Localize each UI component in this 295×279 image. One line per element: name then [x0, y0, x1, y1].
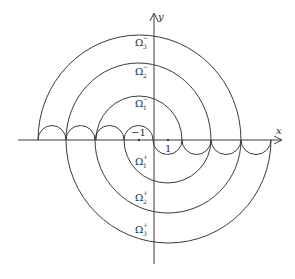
- label-omega2-minus: Ω 2 −: [135, 63, 148, 79]
- spiral-regions-diagram: x y −1 1 Ω 3 − Ω 2 − Ω 1 − Ω 1 + Ω 2 +: [0, 0, 295, 279]
- small-arc-lower: [241, 140, 271, 155]
- small-arc-lower: [182, 140, 211, 155]
- svg-text:3: 3: [143, 230, 147, 237]
- label-omega2-plus: Ω 2 +: [135, 189, 148, 205]
- tick-label-one: 1: [165, 143, 171, 154]
- label-omega1-minus: Ω 1 −: [135, 95, 148, 111]
- x-axis-label: x: [276, 125, 282, 136]
- arc-omega3-minus: [38, 35, 241, 140]
- svg-text:1: 1: [143, 162, 147, 169]
- y-axis-label: y: [157, 11, 164, 22]
- small-arc-upper: [95, 126, 124, 141]
- tick-neg-one: [138, 139, 140, 141]
- label-omega3-plus: Ω 3 +: [135, 221, 148, 237]
- svg-text:+: +: [143, 221, 148, 228]
- small-arc-upper: [38, 126, 66, 141]
- label-omega3-minus: Ω 3 −: [135, 34, 148, 50]
- svg-text:−: −: [143, 63, 148, 70]
- small-arc-upper: [66, 126, 95, 141]
- svg-text:+: +: [143, 189, 148, 196]
- label-omega1-plus: Ω 1 +: [135, 153, 148, 169]
- svg-text:2: 2: [143, 198, 147, 205]
- small-arc-lower: [211, 140, 241, 155]
- svg-text:+: +: [143, 153, 148, 160]
- svg-text:3: 3: [143, 43, 147, 50]
- tick-one: [167, 139, 169, 141]
- svg-text:2: 2: [143, 72, 147, 79]
- tick-label-neg-one: −1: [131, 127, 146, 138]
- svg-text:1: 1: [143, 104, 147, 111]
- diagram-canvas: x y −1 1 Ω 3 − Ω 2 − Ω 1 − Ω 1 + Ω 2 +: [0, 0, 295, 279]
- svg-text:−: −: [143, 95, 148, 102]
- svg-text:−: −: [143, 34, 148, 41]
